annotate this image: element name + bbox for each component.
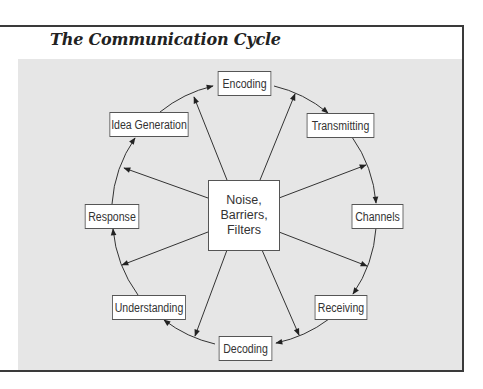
node-encoding: Encoding (218, 71, 272, 96)
spoke-se-bottom (262, 250, 299, 335)
arc-understanding-to-response (113, 229, 138, 295)
node-idea-generation: Idea Generation (109, 112, 188, 137)
node-understanding: Understanding (112, 295, 186, 320)
arc-channels-to-receiving (353, 228, 376, 294)
node-label: Transmitting (312, 119, 370, 133)
arc-idea-to-encoding (160, 86, 213, 112)
spoke-nw-top (194, 97, 227, 180)
node-label: Channels (355, 210, 400, 224)
arc-receiving-to-decoding (276, 319, 329, 343)
node-transmitting: Transmitting (307, 113, 375, 138)
spoke-ne-top (260, 94, 295, 180)
arc-decoding-to-understanding (164, 320, 215, 344)
center-noise-barriers-filters: Noise, Barriers, Filters (208, 180, 280, 251)
node-label: Idea Generation (111, 118, 187, 132)
spoke-sw-side (122, 232, 208, 265)
arc-encoding-to-transmitting (274, 86, 328, 113)
node-receiving: Receiving (315, 295, 368, 320)
node-label: Encoding (222, 77, 266, 91)
node-label: Receiving (318, 301, 364, 315)
node-channels: Channels (352, 204, 404, 229)
spoke-se-side (279, 232, 367, 266)
center-line-1: Noise, (226, 193, 261, 208)
node-label: Response (88, 210, 136, 224)
spoke-nw-side (124, 168, 208, 198)
node-decoding: Decoding (219, 336, 273, 361)
spoke-ne-side (279, 165, 366, 198)
node-label: Decoding (223, 342, 268, 356)
arc-transmitting-to-channels (352, 137, 376, 203)
center-line-2: Barriers, (220, 208, 267, 223)
node-response: Response (85, 204, 140, 229)
spoke-sw-bottom (195, 250, 227, 336)
center-line-3: Filters (227, 223, 261, 238)
node-label: Understanding (115, 301, 184, 315)
